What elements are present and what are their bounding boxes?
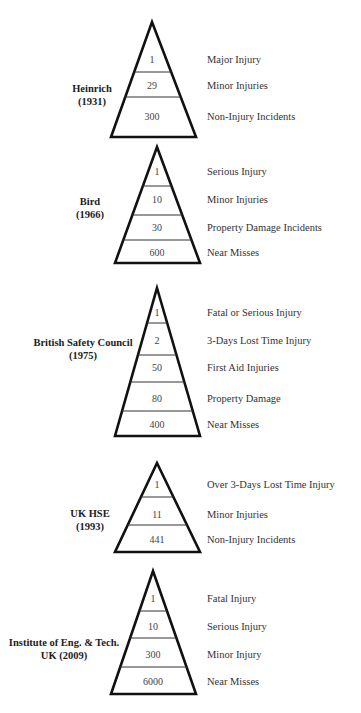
tier-value: 1	[155, 307, 160, 319]
tier-value: 80	[152, 393, 162, 405]
tier-label: Near Misses	[207, 419, 259, 431]
model-name: Institute of Eng. & Tech.	[9, 636, 119, 649]
model-year: (1931)	[72, 95, 112, 108]
model-name: Heinrich	[72, 82, 112, 95]
tier-label: Property Damage	[207, 393, 281, 405]
tier-label: Serious Injury	[207, 621, 267, 633]
tier-value: 10	[148, 621, 158, 633]
model-year: (1975)	[33, 349, 132, 362]
tier-value: 2	[155, 335, 160, 347]
tier-label: Non-Injury Incidents	[207, 534, 295, 546]
tier-value: 11	[152, 509, 162, 521]
model-title-bird: Bird (1966)	[76, 195, 104, 221]
tier-value: 441	[150, 534, 165, 546]
tier-value: 50	[152, 362, 162, 374]
tier-value: 1	[155, 166, 160, 178]
model-year: (1966)	[76, 208, 104, 221]
tier-value: 1	[150, 54, 155, 66]
model-name: British Safety Council	[33, 336, 132, 349]
model-title-british-safety-council: British Safety Council (1975)	[33, 336, 132, 362]
model-title-uk-hse: UK HSE (1993)	[70, 507, 109, 533]
model-title-heinrich: Heinrich (1931)	[72, 82, 112, 108]
model-name: UK HSE	[70, 507, 109, 520]
tier-value: 10	[152, 194, 162, 206]
tier-label: First Aid Injuries	[207, 362, 279, 374]
tier-label: Non-Injury Incidents	[207, 111, 295, 123]
tier-label: Serious Injury	[207, 166, 267, 178]
tier-label: Over 3-Days Lost Time Injury	[207, 479, 335, 491]
tier-value: 300	[145, 111, 160, 123]
tier-label: 3-Days Lost Time Injury	[207, 335, 311, 347]
model-name: Bird	[76, 195, 104, 208]
tier-label: Minor Injuries	[207, 80, 268, 92]
tier-label: Minor Injuries	[207, 194, 268, 206]
tier-label: Fatal Injury	[207, 593, 256, 605]
tier-value: 29	[147, 80, 157, 92]
tier-label: Near Misses	[207, 247, 259, 259]
model-title-iet-uk: Institute of Eng. & Tech. UK (2009)	[9, 636, 119, 662]
tier-label: Major Injury	[207, 54, 261, 66]
tier-value: 400	[150, 419, 165, 431]
model-year: UK (2009)	[9, 649, 119, 662]
pyramid-diagram-canvas: Heinrich (1931) 1 29 300 Major Injury Mi…	[0, 0, 361, 713]
tier-label: Fatal or Serious Injury	[207, 307, 302, 319]
model-year: (1993)	[70, 520, 109, 533]
tier-label: Property Damage Incidents	[207, 222, 322, 234]
tier-value: 1	[155, 479, 160, 491]
tier-value: 1	[151, 593, 156, 605]
tier-label: Minor Injury	[207, 649, 262, 661]
tier-value: 6000	[143, 676, 163, 688]
tier-value: 600	[150, 247, 165, 259]
tier-label: Near Misses	[207, 676, 259, 688]
tier-value: 300	[146, 649, 161, 661]
tier-label: Minor Injuries	[207, 509, 268, 521]
tier-value: 30	[152, 222, 162, 234]
